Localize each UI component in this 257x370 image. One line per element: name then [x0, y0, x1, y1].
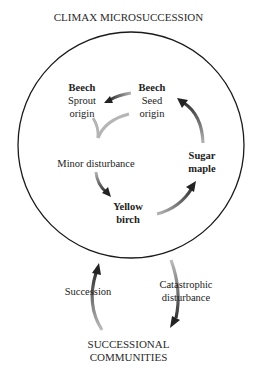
- title-climax-microsuccession: CLIMAX MICROSUCCESSION: [0, 11, 257, 24]
- successional-line1: SUCCESSIONAL: [0, 338, 257, 351]
- label-succession: Succession: [58, 285, 118, 298]
- node-beech-seed: Beech Seed origin: [125, 81, 179, 120]
- arrow-birch-to-maple: [157, 181, 196, 214]
- node-beech-sprout: Beech Sprout origin: [55, 81, 109, 120]
- arrow-minor-disturbance: [93, 114, 129, 197]
- node-yellow-birch: Yellow birch: [103, 200, 153, 226]
- succession-diagram: [0, 0, 257, 370]
- sugar-maple-line1: Sugar: [177, 149, 227, 162]
- beech-sprout-line2: Sprout: [55, 94, 109, 107]
- beech-sprout-name: Beech: [55, 81, 109, 94]
- title-successional-communities: SUCCESSIONAL COMMUNITIES: [0, 338, 257, 364]
- arrow-maple-to-seed: [177, 98, 203, 143]
- successional-line2: COMMUNITIES: [0, 351, 257, 364]
- node-sugar-maple: Sugar maple: [177, 149, 227, 175]
- label-catastrophic-disturbance: Catastrophic disturbance: [146, 278, 226, 304]
- node-minor-disturbance: Minor disturbance: [46, 157, 146, 170]
- beech-seed-line3: origin: [125, 107, 179, 120]
- yellow-birch-line2: birch: [103, 213, 153, 226]
- beech-seed-name: Beech: [125, 81, 179, 94]
- sugar-maple-line2: maple: [177, 162, 227, 175]
- catastrophic-line1: Catastrophic: [146, 278, 226, 291]
- yellow-birch-line1: Yellow: [103, 200, 153, 213]
- beech-sprout-line3: origin: [55, 107, 109, 120]
- catastrophic-line2: disturbance: [146, 291, 226, 304]
- beech-seed-line2: Seed: [125, 94, 179, 107]
